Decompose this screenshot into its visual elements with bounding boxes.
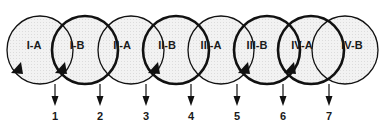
output-arrow-3: 3 bbox=[143, 84, 150, 122]
output-arrow-1: 1 bbox=[52, 84, 59, 122]
ellipse-label: III-A bbox=[201, 39, 222, 51]
output-arrow-7: 7 bbox=[326, 84, 333, 122]
step-number: 5 bbox=[234, 110, 240, 122]
ellipse-label: I-A bbox=[27, 39, 42, 51]
output-arrow-5: 5 bbox=[234, 84, 241, 122]
ellipse-label: IV-A bbox=[291, 39, 312, 51]
ellipse-label: III-B bbox=[247, 39, 268, 51]
output-arrow-2: 2 bbox=[97, 84, 104, 122]
arrow-down-icon bbox=[97, 96, 104, 106]
step-number: 4 bbox=[188, 110, 195, 122]
arrow-down-icon bbox=[326, 96, 333, 106]
output-arrow-4: 4 bbox=[188, 84, 195, 122]
arrow-down-icon bbox=[52, 96, 59, 106]
step-number: 2 bbox=[97, 110, 103, 122]
output-arrow-6: 6 bbox=[280, 84, 287, 122]
arrow-down-icon bbox=[188, 96, 195, 106]
step-number: 7 bbox=[326, 110, 332, 122]
output-arrows: 1234567 bbox=[52, 84, 333, 122]
ellipse-chain-diagram: I-AI-BII-AII-BIII-AIII-BIV-AIV-B 1234567 bbox=[0, 0, 385, 133]
step-number: 3 bbox=[143, 110, 149, 122]
ellipse-label: I-B bbox=[70, 39, 85, 51]
ellipse-label: IV-B bbox=[341, 39, 362, 51]
ellipse-label: II-B bbox=[158, 39, 176, 51]
arrow-down-icon bbox=[280, 96, 287, 106]
arrow-down-icon bbox=[143, 96, 150, 106]
step-number: 6 bbox=[280, 110, 286, 122]
step-number: 1 bbox=[52, 110, 58, 122]
arrow-down-icon bbox=[234, 96, 241, 106]
ellipse-label: II-A bbox=[113, 39, 131, 51]
